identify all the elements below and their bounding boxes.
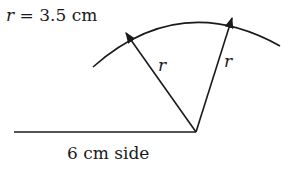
circle-arc [93, 22, 280, 67]
left-radius-label: r [158, 55, 167, 75]
base-side-label: 6 cm side [67, 143, 149, 163]
right-radius-arrow [196, 18, 232, 132]
radius-value-label: r = 3.5 cm [6, 5, 97, 25]
left-radius-arrow [126, 33, 196, 132]
diagram-canvas: r = 3.5 cm r r 6 cm side [0, 0, 297, 176]
right-radius-label: r [224, 51, 233, 71]
